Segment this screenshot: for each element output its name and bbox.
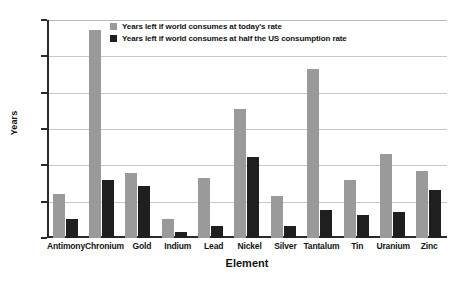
bar-group	[229, 20, 265, 238]
x-axis-tick-label: Nickel	[232, 241, 268, 251]
bar	[284, 226, 296, 238]
bar	[357, 215, 369, 238]
legend-label: Years left if world consumes at half the…	[122, 34, 347, 43]
bar-group	[338, 20, 374, 238]
x-axis-tick-label: Tin	[339, 241, 375, 251]
bar-group	[47, 20, 83, 238]
bar-chart: Years 0255075100125150 AntimonyChroniumG…	[0, 0, 451, 283]
x-axis-tick-label: Uranium	[375, 241, 411, 251]
legend-item: Years left if world consumes at half the…	[110, 34, 347, 43]
y-axis-title: Years	[9, 93, 19, 153]
x-axis-tick-label: Lead	[196, 241, 232, 251]
bar	[344, 180, 356, 238]
x-axis-tick-label: Zinc	[411, 241, 447, 251]
bar-group	[156, 20, 192, 238]
bar	[89, 30, 101, 238]
bar	[380, 154, 392, 238]
x-axis-tick-label: Silver	[268, 241, 304, 251]
bar	[175, 232, 187, 238]
bar	[102, 180, 114, 238]
bar	[125, 173, 137, 238]
bar	[66, 219, 78, 238]
x-axis-tick-labels: AntimonyChroniumGoldIndiumLeadNickelSilv…	[47, 241, 447, 251]
bar-group	[265, 20, 301, 238]
legend-swatch-icon	[110, 35, 117, 42]
bar	[307, 69, 319, 238]
x-axis-tick-label: Antimony	[47, 241, 85, 251]
x-axis-tick-label: Indium	[160, 241, 196, 251]
bar	[53, 194, 65, 238]
x-axis-title: Element	[47, 257, 447, 269]
bar	[198, 178, 210, 238]
bar	[138, 186, 150, 238]
bar	[162, 219, 174, 238]
x-axis-tick-label: Tantalum	[303, 241, 339, 251]
bar	[320, 210, 332, 238]
bar-group	[192, 20, 228, 238]
bar-group	[120, 20, 156, 238]
legend-label: Years left if world consumes at today's …	[122, 22, 282, 31]
chart-legend: Years left if world consumes at today's …	[110, 22, 347, 43]
x-axis-tick-label: Chronium	[85, 241, 124, 251]
bar	[393, 212, 405, 238]
bar-group	[302, 20, 338, 238]
bar-group	[411, 20, 447, 238]
bar	[416, 171, 428, 238]
bar	[271, 196, 283, 238]
legend-item: Years left if world consumes at today's …	[110, 22, 347, 31]
bar-group	[374, 20, 410, 238]
bar	[234, 109, 246, 238]
legend-swatch-icon	[110, 23, 117, 30]
bar	[429, 190, 441, 238]
bar	[211, 226, 223, 238]
x-axis-tick-label: Gold	[124, 241, 160, 251]
bar	[247, 157, 259, 238]
bar-groups	[47, 20, 447, 238]
bar-group	[83, 20, 119, 238]
